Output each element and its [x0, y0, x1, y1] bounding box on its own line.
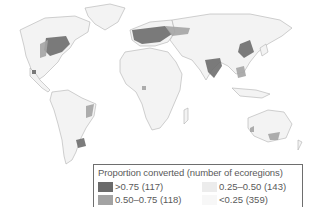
- legend-title: Proportion converted (number of ecoregio…: [98, 167, 298, 179]
- legend-swatch-high: [98, 182, 113, 192]
- legend-label-high: >0.75 (117): [115, 181, 163, 193]
- new-zealand: [298, 140, 302, 150]
- indonesia: [232, 88, 270, 98]
- legend-swatch-mid-high: [98, 195, 113, 205]
- south-america: [50, 90, 96, 164]
- legend-item-mid-high: 0.50–0.75 (118): [98, 194, 202, 206]
- madagascar: [184, 108, 188, 124]
- legend-label-mid-high: 0.50–0.75 (118): [115, 194, 181, 206]
- map-legend: Proportion converted (number of ecoregio…: [93, 164, 303, 207]
- legend-item-low: <0.25 (359): [202, 194, 306, 206]
- west-africa: [142, 86, 146, 90]
- mexico: [32, 70, 36, 74]
- legend-swatch-mid-low: [202, 182, 217, 192]
- us-midwest-east: [44, 36, 70, 56]
- africa: [120, 48, 182, 130]
- legend-swatch-low: [202, 195, 217, 205]
- legend-item-mid-low: 0.25–0.50 (143): [202, 181, 306, 193]
- legend-label-mid-low: 0.25–0.50 (143): [219, 181, 286, 193]
- greenland: [85, 4, 125, 30]
- legend-label-low: <0.25 (359): [219, 194, 268, 206]
- legend-items: >0.75 (117) 0.25–0.50 (143) 0.50–0.75 (1…: [98, 181, 298, 206]
- asia: [170, 14, 292, 80]
- legend-item-high: >0.75 (117): [98, 181, 202, 193]
